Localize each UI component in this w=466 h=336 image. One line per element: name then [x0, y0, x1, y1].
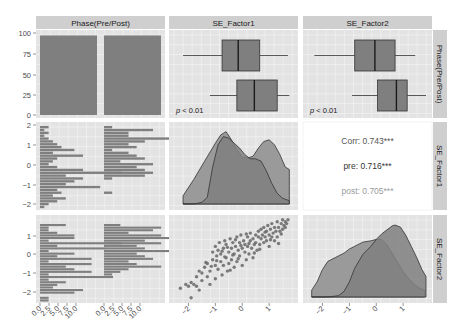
scatter-point [284, 226, 287, 229]
hist-bar-pre [40, 284, 57, 286]
scatter-point [249, 231, 252, 234]
scatter-point [269, 228, 272, 231]
scatter-point [258, 243, 261, 246]
scatter-point [258, 248, 261, 251]
scatter-point [259, 237, 262, 240]
scatter-point [231, 241, 234, 244]
hist-bar-post [104, 268, 129, 270]
scatter-point [204, 261, 207, 264]
hist-bar-post [104, 169, 145, 171]
scatter-point [237, 249, 240, 252]
scatter-point [208, 283, 211, 286]
scatter-point [274, 230, 277, 233]
hist-bar-post [104, 250, 169, 252]
scatter-point [215, 254, 218, 257]
scatter-point [269, 238, 272, 241]
panel-se1-density [169, 122, 298, 210]
hist-bar-pre [40, 166, 57, 168]
x-tick-label: −1 [340, 304, 352, 316]
scatter-point [203, 266, 206, 269]
hist-bar-pre [40, 200, 57, 202]
column-strip-se-factor2: SE_Factor2 [303, 16, 432, 29]
hist-bar-pre [40, 286, 53, 288]
scatter-point [273, 226, 276, 229]
scatter-point [266, 224, 269, 227]
scatter-point [216, 249, 219, 252]
hist-bar-pre [40, 268, 74, 270]
scatter-point [214, 277, 217, 280]
hist-bar-pre [40, 180, 74, 182]
scatter-point [200, 279, 203, 282]
hist-bar-pre [40, 234, 74, 236]
panel-se1-histogram [36, 122, 169, 210]
pairs-plot-figure: Phase(Pre/Post) SE_Factor1 SE_Factor2 Ph… [0, 0, 466, 336]
hist-bar-post [104, 255, 145, 257]
scatter-point [234, 245, 237, 248]
x-tick-label: −2 [179, 304, 191, 316]
hist-bar-pre [40, 143, 57, 145]
hist-bar-post [104, 155, 137, 157]
y-tick-label: 25 [23, 91, 31, 100]
p-value-text: < 0.01 [314, 106, 337, 115]
scatter-point [218, 241, 221, 244]
scatter-point [228, 268, 231, 271]
hist-bar-pre [40, 140, 53, 142]
hist-bar-pre [40, 132, 49, 134]
y-tick-label: −2 [22, 200, 31, 209]
hist-bar-pre [40, 258, 92, 260]
y-tick-label: −2 [22, 288, 31, 297]
y-tick-label: −1 [22, 181, 31, 190]
x-tick-label: −1 [206, 304, 218, 316]
hist-bar-post [104, 227, 161, 229]
scatter-point [285, 222, 288, 225]
x-tick-label: 0 [370, 304, 379, 313]
hist-bar-pre [40, 174, 66, 176]
scatter-point [223, 239, 226, 242]
column-strip-phase: Phase(Pre/Post) [36, 16, 165, 29]
scatter-point [232, 266, 235, 269]
hist-bar-post [104, 247, 145, 249]
hist-bar-post [104, 135, 129, 137]
hist-bar-pre [40, 276, 113, 278]
box-post [237, 80, 277, 111]
scatter-point [228, 237, 231, 240]
scatter-point [195, 285, 198, 288]
hist-bar-pre [40, 183, 66, 185]
p-value-text: < 0.01 [180, 106, 203, 115]
hist-bar-post [104, 146, 137, 148]
panel-se2-boxplot [303, 30, 432, 118]
y-tick-label: 0 [27, 250, 31, 259]
scatter-point [267, 245, 270, 248]
hist-bar-post [104, 258, 153, 260]
hist-bar-pre [40, 271, 92, 273]
row-strip-se-factor2: SE_Factor2 [433, 215, 447, 303]
hist-bar-pre [40, 253, 74, 255]
hist-bar-post [104, 172, 153, 174]
panel-scatter [169, 215, 298, 303]
column-strip-label: Phase(Pre/Post) [71, 19, 130, 28]
hist-bar-pre [40, 157, 57, 159]
scatter-point [247, 252, 250, 255]
scatter-point [210, 265, 213, 268]
panel-se2-histogram [36, 215, 169, 303]
scatter-point [211, 250, 214, 253]
scatter-point [187, 285, 190, 288]
hist-bar-post [104, 271, 120, 273]
scatter-point [226, 246, 229, 249]
hist-bar-pre [40, 146, 62, 148]
hist-bar-pre [40, 149, 74, 151]
hist-bar-pre [40, 206, 44, 208]
hist-bar-pre [40, 186, 100, 188]
corr-overall-label: Corr: 0.743*** [341, 136, 394, 146]
scatter-point [239, 244, 242, 247]
row-strip-phase: Phase(Pre/Post) [433, 30, 447, 118]
panel-phase-bar [36, 30, 165, 118]
hist-bar-pre [40, 192, 62, 194]
hist-bar-post [104, 237, 169, 239]
scatter-point [250, 247, 253, 250]
scatter-point [208, 269, 211, 272]
hist-bar-pre [40, 224, 66, 226]
scatter-point [245, 232, 248, 235]
hist-bar-post [104, 143, 129, 145]
hist-bar-pre [40, 281, 66, 283]
